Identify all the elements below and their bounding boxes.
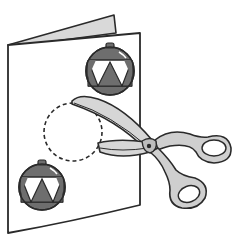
- card-scissors-illustration: [0, 0, 244, 237]
- illustration-canvas: [0, 0, 244, 237]
